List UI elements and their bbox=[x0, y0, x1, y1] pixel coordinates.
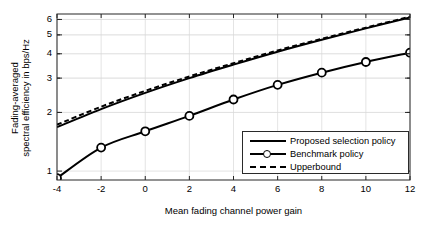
x-tick-label: 10 bbox=[352, 183, 380, 194]
figure: Fading-averaged spectral efficiency in b… bbox=[0, 0, 424, 227]
x-tick-label: 8 bbox=[308, 183, 336, 194]
x-tick-label: 4 bbox=[220, 183, 248, 194]
legend-item-upperbound: Upperbound bbox=[243, 160, 341, 173]
x-tick-label: 0 bbox=[131, 183, 159, 194]
legend-label-proposed: Proposed selection policy bbox=[290, 136, 395, 146]
legend-label-upperbound: Upperbound bbox=[290, 162, 341, 172]
y-tick-label: 6 bbox=[36, 13, 52, 24]
legend-label-benchmark: Benchmark policy bbox=[290, 149, 363, 159]
y-axis-label: Fading-averaged spectral efficiency in b… bbox=[0, 15, 40, 181]
legend-key-dashed-line bbox=[248, 160, 288, 173]
y-tick-label: 3 bbox=[36, 72, 52, 83]
y-axis-label-line-1: Fading-averaged bbox=[9, 62, 21, 134]
x-tick-label: -2 bbox=[87, 183, 115, 194]
circle-marker-icon bbox=[263, 150, 271, 158]
x-tick-label: 12 bbox=[396, 183, 424, 194]
legend-item-benchmark: Benchmark policy bbox=[243, 147, 363, 160]
x-tick-label: 2 bbox=[175, 183, 203, 194]
y-tick-label: 4 bbox=[36, 47, 52, 58]
legend: Proposed selection policy Benchmark poli… bbox=[242, 131, 409, 174]
y-tick-label: 2 bbox=[36, 106, 52, 117]
legend-item-proposed: Proposed selection policy bbox=[243, 134, 395, 147]
y-axis-label-line-2: spectral efficiency in bps/Hz bbox=[20, 39, 32, 157]
x-tick-label: -4 bbox=[43, 183, 71, 194]
y-tick-label: 1 bbox=[36, 165, 52, 176]
x-axis-label: Mean fading channel power gain bbox=[57, 205, 410, 216]
x-tick-label: 6 bbox=[264, 183, 292, 194]
legend-key-solid-line bbox=[248, 134, 288, 147]
legend-key-marker-line bbox=[248, 147, 288, 160]
y-tick-label: 5 bbox=[36, 28, 52, 39]
